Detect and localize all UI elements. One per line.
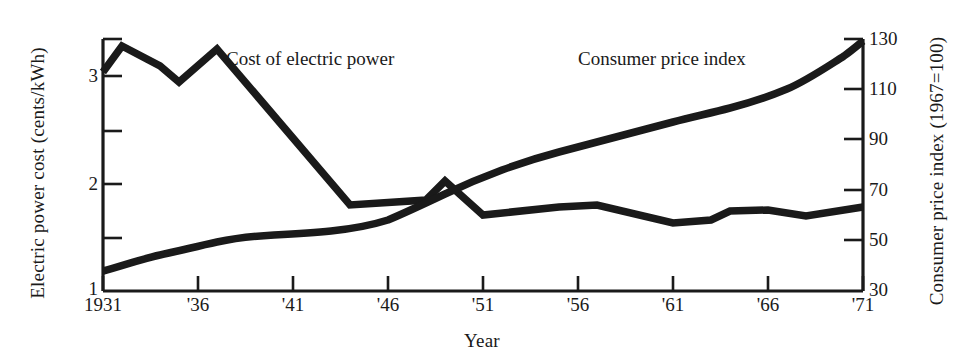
axis-frame [103,39,863,291]
x-tick-51: '51 [438,294,528,316]
x-tick-66: '66 [723,294,813,316]
x-tick-56: '56 [533,294,623,316]
y-axis-left-title: Electric power cost (cents/kWh) [27,23,49,323]
series-line-consumer-price-index [103,41,863,271]
y-right-tick-70: 70 [869,179,929,201]
x-tick-36: '36 [153,294,243,316]
x-axis-title: Year [0,330,964,352]
x-tick-71: '71 [818,294,908,316]
y-right-tick-50: 50 [869,229,929,251]
y-right-tick-110: 110 [869,78,929,100]
y-right-tick-90: 90 [869,128,929,150]
x-tick-1931: 1931 [58,294,148,316]
x-tick-61: '61 [628,294,718,316]
y-axis-right-title: Consumer price index (1967=100) [926,21,948,321]
series-annotation-consumer-price-index: Consumer price index [578,48,746,70]
x-tick-41: '41 [248,294,338,316]
y-right-tick-130: 130 [869,28,929,50]
x-axis-ticks [103,276,863,291]
series-annotation-cost-of-electric-power: Cost of electric power [226,48,394,70]
x-tick-46: '46 [343,294,433,316]
chart-figure: 3 2 1 130 110 90 70 50 30 1931 '36 '41 '… [0,0,964,363]
series-line-cost-of-electric-power [103,46,863,223]
